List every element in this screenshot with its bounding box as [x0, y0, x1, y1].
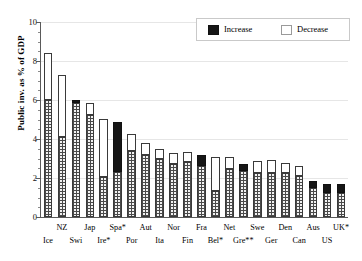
bar-den[interactable]	[281, 163, 290, 217]
x-tick-label-aut: Aut	[140, 224, 152, 232]
x-tick-label-nor: Nor	[167, 224, 180, 232]
bar-ger[interactable]	[267, 160, 276, 217]
bar-base-segment	[281, 173, 290, 217]
bar-swe[interactable]	[253, 161, 262, 217]
bar-base-segment	[141, 155, 150, 217]
bar-base-segment	[253, 173, 262, 217]
bar-decrease-segment	[169, 153, 178, 165]
bar-decrease-segment	[211, 157, 220, 191]
bar-net[interactable]	[225, 157, 234, 217]
x-tick-label-swi: Swi	[70, 237, 83, 245]
bar-decrease-segment	[295, 166, 304, 176]
bar-increase-segment	[197, 155, 206, 167]
bar-base-segment	[309, 188, 318, 217]
bar-base-segment	[197, 166, 206, 217]
plot-area	[41, 22, 348, 217]
bar-can[interactable]	[295, 166, 304, 217]
x-tick-label-uk: UK*	[333, 224, 349, 232]
bar-base-segment	[155, 159, 164, 217]
bar-decrease-segment	[225, 157, 234, 170]
bar-fra[interactable]	[197, 155, 206, 217]
bar-aut[interactable]	[141, 143, 150, 217]
bar-increase-segment	[239, 164, 248, 171]
x-tick-label-por: Por	[126, 237, 137, 245]
y-tick-label: 2	[21, 174, 37, 183]
bar-increase-segment	[72, 100, 81, 103]
bar-jap[interactable]	[86, 103, 95, 217]
x-tick-label-nz: NZ	[56, 224, 67, 232]
bar-base-segment	[337, 193, 346, 217]
bar-ire[interactable]	[99, 119, 108, 217]
chart-root: Public inv. as % of GDP 0246810 Increase…	[0, 0, 362, 261]
bar-increase-segment	[113, 122, 122, 172]
x-tick-label-spa: Spa*	[110, 224, 126, 232]
x-tick-label-ger: Ger	[265, 237, 277, 245]
x-tick-label-bel: Bel*	[208, 237, 223, 245]
bar-base-segment	[58, 137, 67, 217]
x-tick-label-den: Den	[278, 224, 292, 232]
bar-base-segment	[225, 169, 234, 217]
bar-decrease-segment	[99, 119, 108, 178]
bar-decrease-segment	[141, 143, 150, 155]
bar-ita[interactable]	[155, 149, 164, 217]
legend-label-decrease: Decrease	[297, 25, 328, 34]
legend-item-increase: Increase	[208, 23, 252, 36]
bar-base-segment	[183, 162, 192, 217]
bar-base-segment	[169, 164, 178, 217]
bar-base-segment	[211, 191, 220, 217]
x-tick-label-ice: Ice	[43, 237, 53, 245]
bar-ice[interactable]	[44, 53, 53, 217]
bar-series	[41, 22, 348, 217]
bar-por[interactable]	[127, 134, 136, 217]
bar-decrease-segment	[267, 160, 276, 173]
legend: Increase Decrease	[196, 18, 350, 41]
x-axis-tick-labels: IceNZSwiJapIre*Spa*PorAutItaNorFinFraBel…	[41, 219, 348, 259]
x-tick-label-us: US	[322, 237, 332, 245]
bar-decrease-segment	[155, 149, 164, 160]
bar-decrease-segment	[281, 163, 290, 173]
bar-base-segment	[113, 172, 122, 217]
x-axis-line	[40, 217, 348, 218]
bar-nor[interactable]	[169, 153, 178, 217]
x-tick-label-fra: Fra	[196, 224, 207, 232]
x-tick-label-gre: Gre**	[233, 237, 253, 245]
y-tick-label: 8	[21, 57, 37, 66]
x-tick-label-ita: Ita	[155, 237, 164, 245]
y-tick-label: 6	[21, 96, 37, 105]
bar-base-segment	[323, 193, 332, 217]
bar-decrease-segment	[58, 75, 67, 137]
y-tick-label: 4	[21, 135, 37, 144]
x-tick-label-jap: Jap	[84, 224, 95, 232]
bar-increase-segment	[323, 184, 332, 193]
y-tick-label: 10	[21, 18, 37, 27]
bar-decrease-segment	[127, 134, 136, 151]
legend-swatch-increase-icon	[208, 25, 219, 35]
bar-nz[interactable]	[58, 75, 67, 217]
legend-label-increase: Increase	[224, 25, 252, 34]
y-tick-label: 0	[21, 213, 37, 222]
bar-base-segment	[127, 151, 136, 217]
bar-uk[interactable]	[337, 184, 346, 217]
bar-base-segment	[267, 173, 276, 217]
bar-decrease-segment	[253, 161, 262, 173]
bar-gre[interactable]	[239, 164, 248, 217]
bar-spa[interactable]	[113, 122, 122, 217]
bar-base-segment	[295, 176, 304, 217]
bar-fin[interactable]	[183, 152, 192, 217]
bar-base-segment	[99, 177, 108, 217]
legend-item-decrease: Decrease	[281, 23, 328, 36]
bar-decrease-segment	[183, 152, 192, 163]
bar-decrease-segment	[44, 53, 53, 100]
bar-bel[interactable]	[211, 157, 220, 217]
x-tick-label-net: Net	[223, 224, 235, 232]
x-tick-label-swe: Swe	[250, 224, 264, 232]
bar-decrease-segment	[86, 103, 95, 115]
x-tick-label-can: Can	[293, 237, 306, 245]
y-axis-tick-labels: 0246810	[20, 22, 37, 218]
bar-aus[interactable]	[309, 181, 318, 217]
bar-base-segment	[86, 115, 95, 217]
x-tick-label-ire: Ire*	[97, 237, 110, 245]
bar-us[interactable]	[323, 184, 332, 217]
x-tick-label-fin: Fin	[182, 237, 193, 245]
bar-swi[interactable]	[72, 100, 81, 217]
